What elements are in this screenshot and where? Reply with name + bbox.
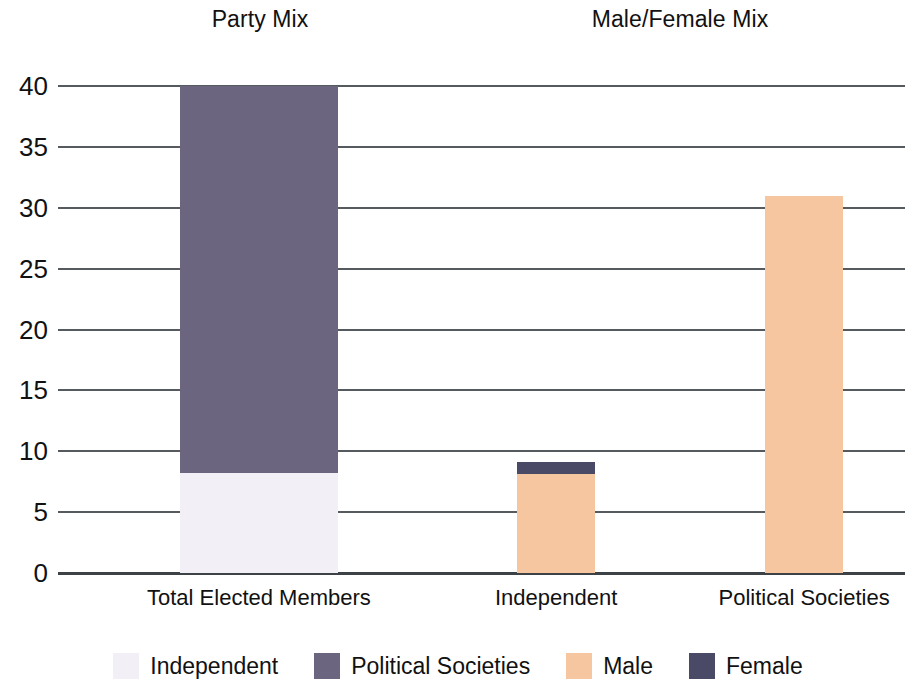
y-axis-tick-15: 15 — [2, 375, 48, 406]
legend-item-male[interactable]: Male — [566, 653, 689, 680]
legend-label: Independent — [150, 653, 278, 680]
y-axis-tick-0: 0 — [2, 558, 48, 589]
legend-swatch-icon-independent — [113, 653, 139, 679]
legend-item-independent[interactable]: Independent — [113, 653, 314, 680]
x-axis-label-political-societies: Political Societies — [719, 585, 890, 611]
plot-area — [58, 86, 905, 573]
y-axis-tick-5: 5 — [2, 497, 48, 528]
legend-item-political-societies[interactable]: Political Societies — [314, 653, 566, 680]
y-axis-tick-10: 10 — [2, 436, 48, 467]
bar-total-elected-members[interactable] — [180, 86, 338, 573]
bar-segment-political-societies — [180, 86, 338, 473]
bar-independent[interactable] — [517, 462, 595, 573]
x-axis-label-independent: Independent — [495, 585, 617, 611]
legend-label: Female — [726, 653, 803, 680]
bar-political-societies[interactable] — [765, 196, 843, 573]
bar-segment-male — [517, 474, 595, 573]
legend-swatch-icon-male — [566, 653, 592, 679]
panel-title-party-mix: Party Mix — [140, 6, 380, 33]
legend-swatch-icon-female — [689, 653, 715, 679]
y-axis-tick-30: 30 — [2, 192, 48, 223]
y-axis-tick-40: 40 — [2, 71, 48, 102]
y-axis-tick-25: 25 — [2, 253, 48, 284]
y-axis-tick-20: 20 — [2, 314, 48, 345]
legend-label: Political Societies — [351, 653, 530, 680]
legend-swatch-icon-political-societies — [314, 653, 340, 679]
y-axis: 0510152025303540 — [0, 86, 48, 573]
y-axis-tick-35: 35 — [2, 131, 48, 162]
bar-segment-independent — [180, 473, 338, 573]
panel-title-male-female-mix: Male/Female Mix — [560, 6, 800, 33]
legend-item-female[interactable]: Female — [689, 653, 803, 680]
chart-container: Party Mix Male/Female Mix 05101520253035… — [0, 0, 916, 694]
bar-segment-female — [517, 462, 595, 474]
legend-label: Male — [603, 653, 653, 680]
x-axis-label-total-elected-members: Total Elected Members — [147, 585, 371, 611]
bar-segment-male — [765, 196, 843, 573]
chart-legend: IndependentPolitical SocietiesMaleFemale — [0, 645, 916, 687]
